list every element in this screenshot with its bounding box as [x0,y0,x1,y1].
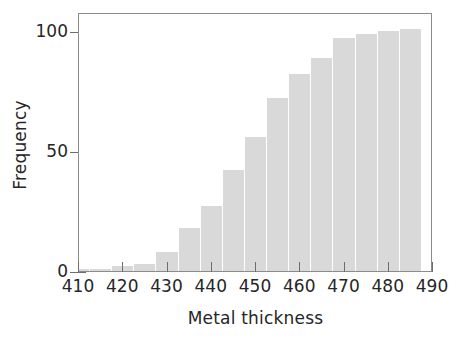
x-tick-mark [299,262,300,272]
bar [179,228,201,271]
plot-area [78,13,432,272]
bar [267,98,289,271]
x-tick-label: 410 [56,277,100,295]
x-tick-mark [432,262,433,272]
x-tick-label: 490 [410,277,454,295]
x-tick-mark [122,262,123,272]
bar [333,38,355,271]
y-axis-title: Frequency [0,0,40,290]
x-tick-mark [78,262,79,272]
histogram-figure: Frequency 050100 41042043044045046047048… [0,0,467,346]
y-tick-mark [70,272,79,273]
bar [245,137,267,271]
x-tick-mark [211,262,212,272]
x-tick-label: 450 [233,277,277,295]
x-tick-mark [344,262,345,272]
bar [223,170,245,271]
bar [134,264,156,271]
bar [90,269,112,271]
y-tick-mark-inner [79,272,86,273]
x-tick-mark [167,262,168,272]
x-tick-mark [388,262,389,272]
x-axis-title: Metal thickness [78,308,433,328]
x-tick-label: 470 [322,277,366,295]
x-tick-label: 440 [189,277,233,295]
bar [201,206,223,271]
y-tick-label: 50 [46,143,68,160]
x-tick-label: 480 [366,277,410,295]
y-axis-title-text: Frequency [10,100,30,190]
bar [289,74,311,271]
x-tick-label: 430 [145,277,189,295]
bar [78,269,90,271]
bar [156,252,178,271]
x-tick-mark [255,262,256,272]
y-tick-label: 100 [36,23,68,40]
bar [356,34,378,271]
x-tick-label: 460 [277,277,321,295]
bar [378,31,400,271]
bar [400,29,422,271]
bar [311,58,333,271]
x-tick-label: 420 [100,277,144,295]
bar [112,266,134,271]
